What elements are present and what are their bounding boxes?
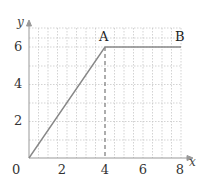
tick-y-6: 6 — [14, 39, 22, 54]
x-axis-label: x — [189, 155, 196, 169]
tick-x-8: 8 — [176, 162, 184, 177]
tick-origin: 0 — [12, 162, 20, 177]
tick-x-6: 6 — [139, 162, 147, 177]
point-label-a: A — [98, 29, 109, 44]
point-label-b: B — [175, 29, 185, 44]
y-axis-label: y — [16, 15, 24, 29]
chart: 0 2 4 6 8 2 4 6 y x A B — [0, 0, 202, 181]
axes — [27, 20, 194, 161]
y-axis-arrow-icon — [27, 20, 32, 26]
tick-x-2: 2 — [58, 162, 66, 177]
tick-y-2: 2 — [14, 113, 22, 128]
tick-x-4: 4 — [101, 162, 109, 177]
tick-y-4: 4 — [14, 76, 22, 91]
